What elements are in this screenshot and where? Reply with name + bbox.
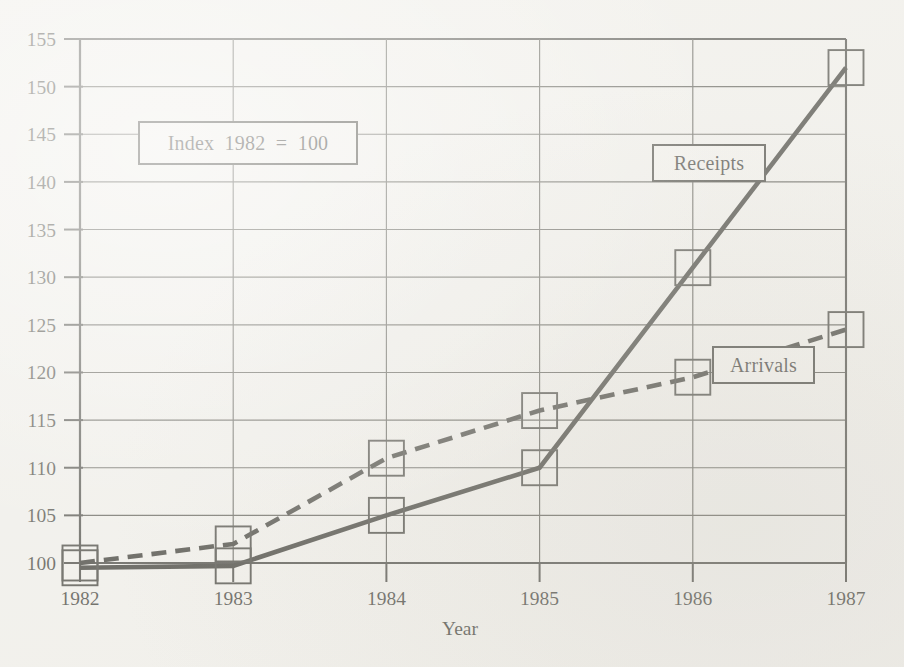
- x-tick-label-1983: 1983: [214, 588, 253, 609]
- chart-root: 100105110115120125130135140145150155 198…: [0, 0, 904, 667]
- y-tick-label-115: 115: [27, 410, 56, 431]
- x-tick-label-1986: 1986: [673, 588, 712, 609]
- x-axis-title: Year: [442, 618, 478, 639]
- y-tick-label-130: 130: [27, 267, 56, 288]
- axis-title-group: Year: [442, 618, 478, 639]
- x-tick-label-1982: 1982: [61, 588, 100, 609]
- gridlines-group: [80, 39, 846, 563]
- y-tick-label-155: 155: [27, 29, 56, 50]
- y-tick-label-145: 145: [27, 124, 56, 145]
- x-tick-label-1987: 1987: [827, 588, 866, 609]
- x-tick-labels-group: 198219831984198519861987: [61, 588, 866, 609]
- y-tick-label-120: 120: [27, 362, 56, 383]
- receipts-series-label: Receipts: [652, 144, 766, 182]
- y-tick-label-100: 100: [27, 553, 56, 574]
- y-tick-label-125: 125: [27, 315, 56, 336]
- index-note-callout: Index 1982 = 100: [138, 121, 358, 165]
- arrivals-series-label: Arrivals: [712, 346, 815, 384]
- y-tick-label-135: 135: [27, 220, 56, 241]
- y-tick-label-110: 110: [27, 458, 56, 479]
- line-chart-plot: 100105110115120125130135140145150155 198…: [0, 0, 904, 667]
- y-tick-label-105: 105: [27, 505, 56, 526]
- y-tick-label-150: 150: [27, 77, 56, 98]
- x-tick-label-1985: 1985: [520, 588, 559, 609]
- y-tick-label-140: 140: [27, 172, 56, 193]
- x-tick-label-1984: 1984: [367, 588, 406, 609]
- y-tick-labels-group: 100105110115120125130135140145150155: [27, 29, 56, 574]
